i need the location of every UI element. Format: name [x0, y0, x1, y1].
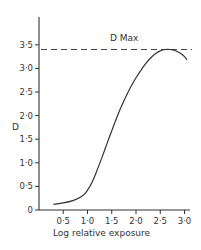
y-tick-label: 1·0 [19, 158, 33, 168]
y-tick-label: 2·0 [19, 111, 33, 121]
x-tick-label: 1·5 [105, 216, 119, 226]
x-tick-label: 2·0 [129, 216, 143, 226]
x-tick-label: 2·5 [153, 216, 167, 226]
x-tick-label: 3·0 [178, 216, 192, 226]
density-curve [54, 49, 187, 204]
y-tick-label: 0 [28, 205, 33, 215]
x-axis-label: Log relative exposure [53, 228, 151, 238]
dmax-label: D Max [110, 33, 139, 43]
y-tick-label: 3·0 [19, 63, 33, 73]
y-tick-label: 2·5 [19, 87, 33, 97]
y-tick-label: 1·5 [19, 134, 33, 144]
y-axis-label: D [12, 122, 19, 132]
characteristic-curve-chart: 00·51·01·52·02·53·03·5 0·51·01·52·02·53·… [0, 0, 201, 250]
y-tick-label: 0·5 [19, 181, 33, 191]
x-tick-label: 0·5 [56, 216, 70, 226]
y-tick-label: 3·5 [19, 40, 33, 50]
x-ticks: 0·51·01·52·02·53·0 [56, 210, 191, 226]
x-tick-label: 1·0 [81, 216, 95, 226]
y-ticks: 00·51·01·52·02·53·03·5 [19, 40, 39, 215]
